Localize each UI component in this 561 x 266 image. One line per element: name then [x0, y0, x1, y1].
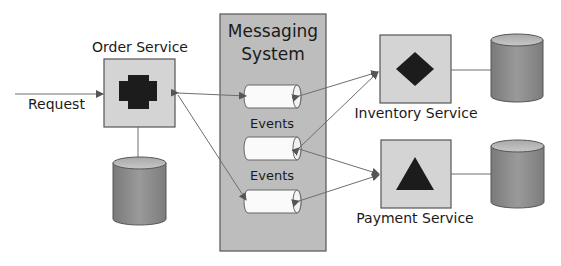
- messaging-system: Messaging System Events Events: [220, 14, 326, 251]
- request-label: Request: [28, 96, 85, 112]
- payment-service: Payment Service: [356, 140, 473, 226]
- event-channel-1: [244, 85, 301, 108]
- payment-service-label: Payment Service: [356, 210, 473, 226]
- order-service: Order Service: [92, 39, 188, 127]
- order-database: [113, 157, 166, 225]
- messaging-system-label-line1: Messaging: [228, 21, 318, 41]
- order-service-label: Order Service: [92, 39, 188, 55]
- events-label-1: Events: [250, 116, 294, 131]
- inventory-service: Inventory Service: [354, 35, 477, 121]
- events-label-2: Events: [250, 168, 294, 183]
- event-channel-3: [244, 190, 301, 213]
- messaging-system-label-line2: System: [241, 44, 304, 64]
- request-flow: Request: [15, 94, 103, 112]
- architecture-diagram: Messaging System Events Events Request O…: [0, 0, 561, 266]
- inventory-database: [491, 34, 543, 102]
- event-channel-2: [244, 137, 301, 160]
- inventory-service-label: Inventory Service: [354, 105, 477, 121]
- payment-database: [491, 140, 544, 208]
